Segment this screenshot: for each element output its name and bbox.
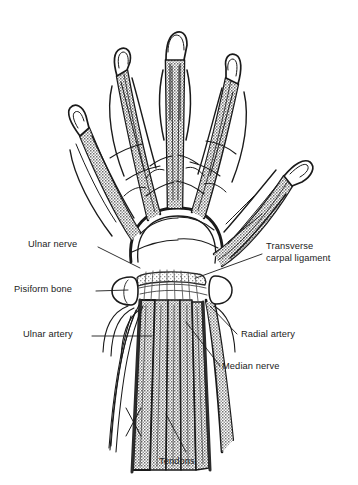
label-transverse-carpal-ligament-line2: carpal ligament (266, 253, 331, 265)
carpal-bone-radial (209, 276, 232, 304)
label-ulnar-nerve: Ulnar nerve (28, 239, 77, 251)
palmar-arch (131, 208, 223, 264)
anatomy-figure: Ulnar nerve Pisiform bone Ulnar artery T… (0, 0, 358, 485)
flexor-tendon-bundle (132, 300, 210, 472)
label-pisiform-bone: Pisiform bone (14, 284, 72, 296)
label-transverse-carpal-ligament-line1: Transverse (266, 241, 313, 253)
label-ulnar-artery: Ulnar artery (23, 329, 73, 341)
pisiform-bone (112, 277, 138, 305)
leader-ulnar-nerve (98, 247, 140, 268)
transverse-carpal-ligament (137, 270, 207, 301)
label-median-nerve: Median nerve (222, 361, 280, 373)
label-tendons: Tendons (159, 456, 195, 468)
label-radial-artery: Radial artery (241, 329, 295, 341)
